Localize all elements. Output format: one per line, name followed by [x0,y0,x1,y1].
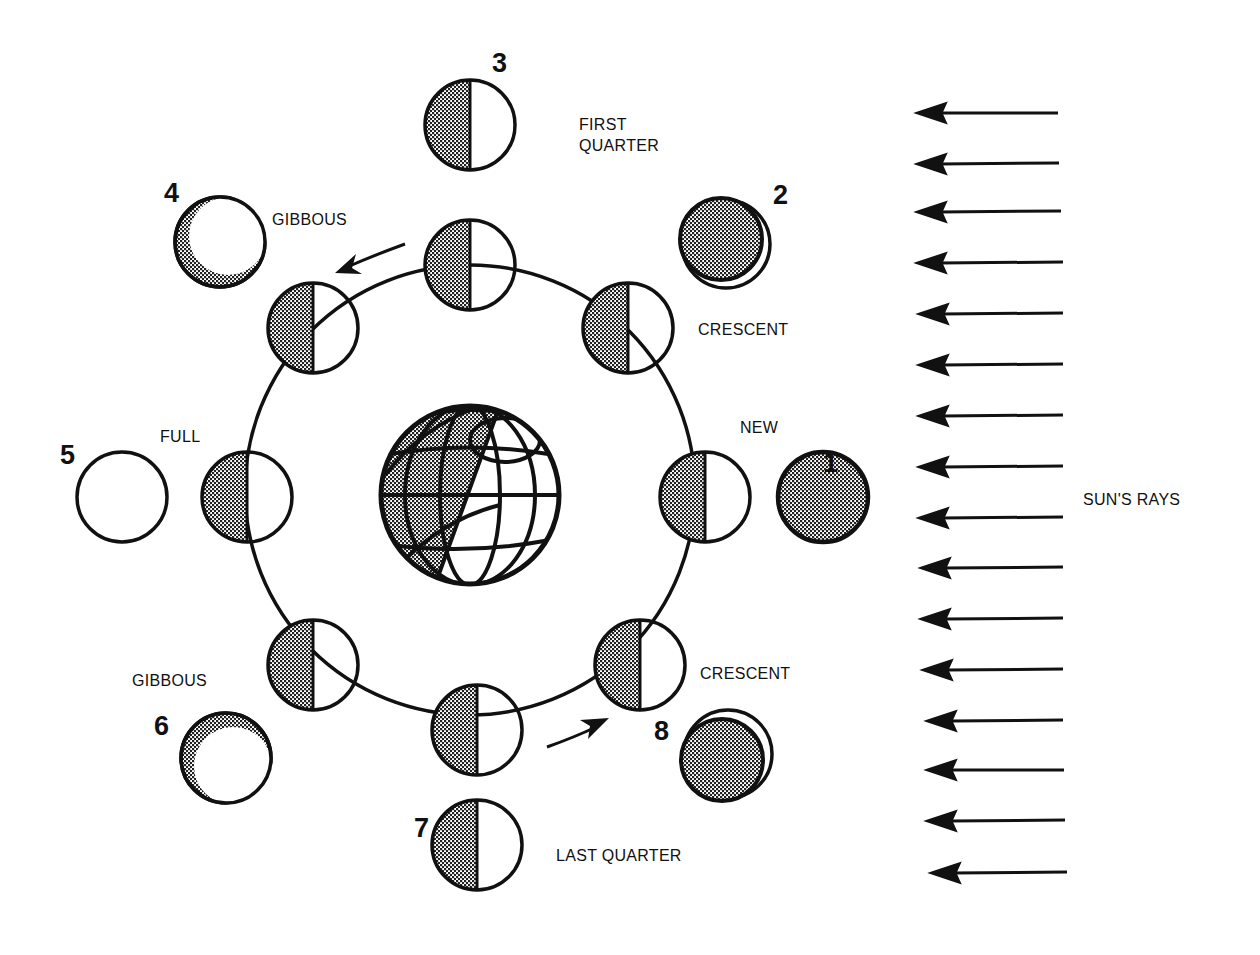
orbit-moon-top [425,220,515,310]
sun-rays [918,104,1067,882]
sun-ray-arrow [918,254,1063,272]
orbit-moon-left [202,452,292,542]
sun-ray-arrow [922,610,1063,628]
label-suns-rays: SUN'S RAYS [1083,490,1180,510]
orbit-moon-bottom-left [268,620,358,710]
label-crescent-top: CRESCENT [698,320,788,340]
label-crescent-bottom: CRESCENT [700,664,790,684]
phase-2-crescent-moon [680,198,770,288]
label-new: NEW [740,418,778,438]
phase-3-first-quarter-moon [425,80,515,170]
phase-number-6: 6 [154,711,169,742]
label-last-quarter: LAST QUARTER [556,846,682,866]
phase-number-5: 5 [60,440,75,471]
phase-6-gibbous-moon [181,713,272,805]
phase-number-2: 2 [773,180,788,211]
sun-ray-arrow [928,712,1063,730]
sun-ray-arrow [932,864,1067,882]
phase-7-last-quarter-moon [432,800,522,890]
orbit-direction-arrow-bottom [547,718,609,747]
sun-ray-arrow [928,812,1065,830]
sun-ray-arrow [922,559,1063,577]
sun-ray-arrow [928,761,1064,779]
label-gibbous-top: GIBBOUS [272,210,347,230]
phase-4-gibbous-moon [175,197,267,287]
earth-globe [370,380,560,600]
sun-ray-arrow [920,458,1063,476]
phase-number-7: 7 [414,813,429,844]
phase-number-8: 8 [654,716,669,747]
orbit-direction-arrow-top [335,244,405,274]
sun-ray-arrow [920,407,1063,425]
orbit-moon-top-left [268,283,358,373]
phase-8-crescent-moon [681,710,772,801]
phase-number-1: 1 [823,448,838,479]
sun-ray-arrow [918,203,1061,221]
label-gibbous-bottom: GIBBOUS [132,671,207,691]
sun-ray-arrow [920,509,1063,527]
orbit-moon-top-right [583,283,673,373]
phase-number-3: 3 [492,48,507,79]
label-first-quarter-line1: FIRST [579,115,627,135]
sun-ray-arrow [924,661,1063,679]
label-full: FULL [160,427,200,447]
sun-ray-arrow [920,356,1063,374]
phase-5-full-moon [77,452,167,542]
orbit-moon-bottom-right [595,620,685,710]
orbit-moon-right [660,452,750,542]
phase-number-4: 4 [164,178,179,209]
orbit-moon-bottom [432,685,522,775]
sun-ray-arrow [918,155,1059,173]
label-first-quarter-line2: QUARTER [579,136,659,156]
sun-ray-arrow [918,104,1058,122]
sun-ray-arrow [920,305,1063,323]
